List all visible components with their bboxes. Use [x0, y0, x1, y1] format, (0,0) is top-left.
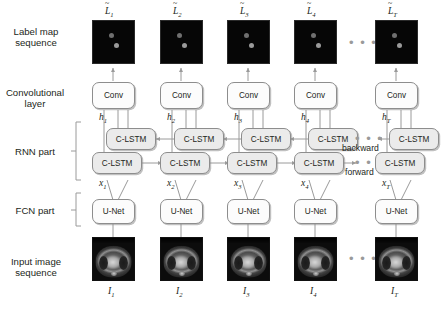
label-map-image-3	[227, 20, 270, 64]
feature-label-4: x4	[301, 177, 309, 190]
ct-lung-right-T	[402, 256, 411, 270]
conv-node-1[interactable]: Conv	[92, 82, 135, 109]
ct-lung-right-3	[254, 256, 263, 270]
ellipsis-label-map-row: • • •	[349, 36, 377, 49]
ct-top-shadow-1	[93, 238, 134, 243]
input-label-2: I2	[176, 285, 183, 298]
feature-label-2: x2	[167, 177, 175, 190]
ct-lung-left-2	[167, 256, 176, 270]
ct-top-shadow-2	[161, 238, 202, 243]
label-blob-light-3	[249, 43, 254, 48]
ct-top-shadow-T	[376, 238, 417, 243]
input-image-3	[227, 237, 270, 281]
clstm-backward-node-T[interactable]: C-LSTM	[389, 128, 439, 150]
row-label-input-image-sequence: Input image sequence	[2, 256, 70, 279]
tilde-accent-2: ~	[172, 0, 178, 8]
label-map-image-4	[294, 20, 337, 64]
ellipsis-input-row: • • •	[349, 252, 377, 265]
clstm-forward-node-4[interactable]: C-LSTM	[294, 152, 344, 174]
label-blob-dark-1	[109, 33, 114, 38]
row-label-rnn-part: RNN part	[4, 146, 66, 157]
feature-label-T: xT	[382, 177, 390, 190]
tilde-accent-1: ~	[104, 0, 110, 8]
conv-node-3[interactable]: Conv	[227, 82, 270, 109]
ct-lung-right-4	[321, 256, 330, 270]
figure-canvas: Label map sequence Convolutional layer R…	[0, 0, 444, 311]
feature-label-3: x3	[234, 177, 242, 190]
clstm-forward-node-3[interactable]: C-LSTM	[227, 152, 277, 174]
tilde-accent-4: ~	[306, 0, 312, 8]
feature-sub-1: 1	[103, 183, 106, 190]
output-label-1: ~L1	[105, 5, 114, 18]
output-label-T: ~LT	[388, 5, 397, 18]
ct-lung-left-4	[301, 256, 310, 270]
hidden-label-1: h1	[99, 111, 107, 124]
hidden-sub-2: 2	[172, 117, 175, 124]
clstm-backward-node-2[interactable]: C-LSTM	[174, 128, 224, 150]
clstm-forward-node-1[interactable]: C-LSTM	[92, 152, 142, 174]
ct-top-shadow-4	[295, 238, 336, 243]
output-label-3: ~L3	[240, 5, 249, 18]
hidden-label-T: hT	[382, 111, 390, 124]
ct-lung-left-3	[234, 256, 243, 270]
label-blob-dark-3	[244, 33, 249, 38]
forward-direction-label: forward	[345, 167, 374, 177]
input-sub-2: 2	[179, 291, 182, 298]
input-label-T: IT	[391, 285, 398, 298]
label-blob-light-4	[316, 43, 321, 48]
ct-lung-right-2	[187, 256, 196, 270]
output-sub-1: 1	[110, 11, 113, 18]
conv-node-2[interactable]: Conv	[160, 82, 203, 109]
label-blob-dark-2	[177, 33, 182, 38]
hidden-sub-T: T	[387, 117, 391, 124]
input-label-4: I4	[310, 285, 317, 298]
hidden-sub-4: 4	[306, 117, 309, 124]
input-sub-T: T	[394, 291, 398, 298]
clstm-backward-node-3[interactable]: C-LSTM	[241, 128, 291, 150]
hidden-sub-1: 1	[104, 117, 107, 124]
output-label-2: ~L2	[173, 5, 182, 18]
ct-lung-left-T	[382, 256, 391, 270]
label-blob-dark-4	[311, 33, 316, 38]
hidden-label-3: h3	[234, 111, 242, 124]
output-sub-4: 4	[312, 11, 315, 18]
input-sub-4: 4	[313, 291, 316, 298]
feature-sub-4: 4	[305, 183, 308, 190]
feature-sub-3: 3	[238, 183, 241, 190]
output-label-4: ~L4	[307, 5, 316, 18]
input-label-1: I1	[108, 285, 115, 298]
label-map-image-1	[92, 20, 135, 64]
unet-node-T[interactable]: U-Net	[375, 199, 418, 224]
label-map-image-T	[375, 20, 418, 64]
input-image-4	[294, 237, 337, 281]
unet-node-4[interactable]: U-Net	[294, 199, 337, 224]
output-sub-T: T	[393, 11, 397, 18]
label-blob-light-1	[114, 43, 119, 48]
feature-sub-T: T	[386, 183, 390, 190]
input-label-3: I3	[243, 285, 250, 298]
clstm-forward-node-2[interactable]: C-LSTM	[160, 152, 210, 174]
conv-node-4[interactable]: Conv	[294, 82, 337, 109]
clstm-backward-node-1[interactable]: C-LSTM	[106, 128, 156, 150]
clstm-forward-node-T[interactable]: C-LSTM	[375, 152, 425, 174]
label-map-image-2	[160, 20, 203, 64]
tilde-accent-T: ~	[387, 0, 393, 8]
backward-direction-label: backward	[342, 143, 379, 153]
output-sub-2: 2	[178, 11, 181, 18]
unet-node-1[interactable]: U-Net	[92, 199, 135, 224]
input-image-2	[160, 237, 203, 281]
output-sub-3: 3	[245, 11, 248, 18]
unet-node-2[interactable]: U-Net	[160, 199, 203, 224]
input-image-T	[375, 237, 418, 281]
row-label-fcn-part: FCN part	[4, 205, 66, 216]
ct-top-shadow-3	[228, 238, 269, 243]
feature-label-1: x1	[99, 177, 107, 190]
tilde-accent-3: ~	[239, 0, 245, 8]
row-label-label-map-sequence: Label map sequence	[4, 26, 68, 49]
hidden-label-2: h2	[167, 111, 175, 124]
conv-node-T[interactable]: Conv	[375, 82, 418, 109]
ct-lung-right-1	[119, 256, 128, 270]
input-sub-1: 1	[111, 291, 114, 298]
unet-node-3[interactable]: U-Net	[227, 199, 270, 224]
hidden-label-4: h4	[301, 111, 309, 124]
